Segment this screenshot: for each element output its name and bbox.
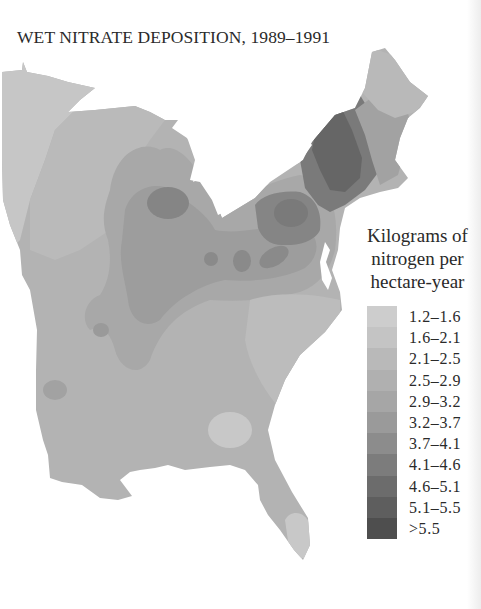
legend-label: 4.1–4.6 bbox=[409, 454, 461, 475]
legend-swatch bbox=[367, 327, 397, 348]
legend-title-line-2: nitrogen per bbox=[354, 247, 481, 270]
legend-swatch bbox=[367, 518, 397, 539]
legend-swatch bbox=[367, 454, 397, 475]
legend-swatch bbox=[367, 476, 397, 497]
legend-swatch bbox=[367, 348, 397, 369]
legend-swatch bbox=[367, 306, 397, 327]
legend-swatch bbox=[367, 433, 397, 454]
legend-label: 1.2–1.6 bbox=[409, 306, 461, 327]
legend-swatch bbox=[367, 391, 397, 412]
legend-label: 3.2–3.7 bbox=[409, 412, 461, 433]
legend-swatch bbox=[367, 497, 397, 518]
legend-label: 2.9–3.2 bbox=[409, 391, 461, 412]
legend-label: >5.5 bbox=[409, 518, 440, 539]
legend-label: 2.1–2.5 bbox=[409, 348, 461, 369]
page-edge-shadow bbox=[467, 0, 481, 609]
legend-label: 5.1–5.5 bbox=[409, 497, 461, 518]
legend-title-line-3: hectare-year bbox=[354, 270, 481, 293]
legend-label: 2.5–2.9 bbox=[409, 370, 461, 391]
legend-label: 3.7–4.1 bbox=[409, 433, 461, 454]
legend-title-line-1: Kilograms of bbox=[354, 224, 481, 247]
legend-label: 4.6–5.1 bbox=[409, 476, 461, 497]
legend-swatch bbox=[367, 412, 397, 433]
legend-swatch bbox=[367, 370, 397, 391]
legend-label: 1.6–2.1 bbox=[409, 327, 461, 348]
legend-title: Kilograms of nitrogen per hectare-year bbox=[354, 224, 481, 293]
